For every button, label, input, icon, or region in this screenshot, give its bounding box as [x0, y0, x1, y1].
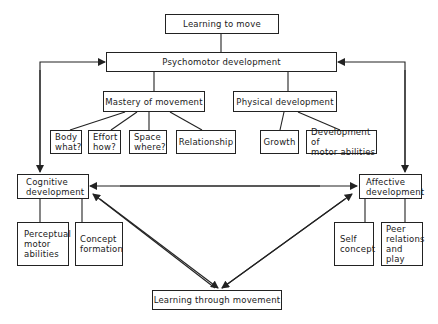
node-cognitive-development: Cognitive development	[17, 174, 89, 199]
node-label: Effort how?	[93, 132, 118, 152]
node-growth: Growth	[260, 130, 299, 154]
node-label: Concept formation	[80, 234, 123, 254]
node-mastery-of-movement: Mastery of movement	[103, 91, 205, 112]
node-label: Affective development	[366, 177, 424, 197]
node-label: Physical development	[236, 97, 333, 107]
node-label: Growth	[264, 137, 296, 147]
node-label: Learning through movement	[154, 295, 281, 305]
node-perceptual-motor-abilities: Perceptual motor abilities	[17, 222, 69, 266]
node-label: Psychomotor development	[162, 57, 281, 67]
node-label: Mastery of movement	[105, 97, 202, 107]
node-self-concept: Self concept	[334, 222, 374, 266]
connector-lines	[0, 0, 438, 324]
node-relationship: Relationship	[176, 130, 236, 154]
node-label: Perceptual motor abilities	[24, 229, 71, 259]
node-development-of-motor-abilities: Development of motor abilities	[306, 130, 377, 154]
node-label: Cognitive development	[26, 177, 84, 197]
node-affective-development: Affective development	[359, 174, 422, 199]
node-psychomotor-development: Psychomotor development	[106, 52, 337, 72]
node-label: Peer relations and play	[386, 224, 425, 264]
node-label: Body what?	[55, 132, 81, 152]
node-effort-how: Effort how?	[88, 130, 121, 154]
node-learning-through-movement: Learning through movement	[152, 290, 282, 310]
diagram-canvas: Learning to move Psychomotor development…	[0, 0, 438, 324]
node-learning-to-move: Learning to move	[165, 14, 279, 34]
node-label: Self concept	[340, 234, 375, 254]
node-concept-formation: Concept formation	[75, 222, 123, 266]
node-label: Relationship	[179, 137, 234, 147]
node-label: Learning to move	[183, 19, 261, 29]
node-label: Development of motor abilities	[311, 127, 376, 157]
node-label: Space where?	[134, 132, 166, 152]
node-peer-relations-and-play: Peer relations and play	[381, 222, 423, 266]
node-physical-development: Physical development	[233, 91, 337, 112]
node-body-what: Body what?	[50, 130, 82, 154]
node-space-where: Space where?	[129, 130, 167, 154]
